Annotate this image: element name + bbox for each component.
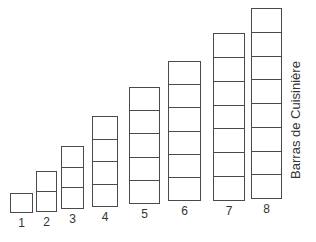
rod-unit-cell (169, 84, 200, 107)
rod-3 (61, 146, 84, 209)
rod-number-label: 6 (175, 204, 195, 218)
diagram-title: Barras de Cuisinière (288, 61, 303, 179)
rod-unit-cell (130, 180, 159, 203)
rod-unit-cell (214, 152, 244, 176)
rod-unit-cell (252, 174, 281, 198)
rod-unit-cell (214, 57, 244, 81)
rod-unit-cell (214, 105, 244, 129)
rod-unit-cell (37, 191, 56, 211)
rod-unit-cell (93, 184, 117, 207)
rod-unit-cell (252, 56, 281, 80)
rod-8 (251, 8, 282, 199)
rod-unit-cell (252, 79, 281, 103)
rod-unit-cell (214, 34, 244, 57)
rod-unit-cell (169, 107, 200, 130)
rod-unit-cell (93, 117, 117, 139)
rod-4 (92, 116, 118, 207)
rod-unit-cell (252, 9, 281, 32)
rod-unit-cell (169, 154, 200, 177)
rod-unit-cell (62, 147, 83, 167)
rod-unit-cell (169, 177, 200, 200)
rod-unit-cell (11, 194, 32, 212)
rod-7 (213, 33, 245, 201)
rod-number-label: 1 (12, 216, 32, 230)
rod-unit-cell (130, 157, 159, 180)
rod-unit-cell (169, 131, 200, 154)
rod-unit-cell (62, 167, 83, 188)
rod-unit-cell (93, 139, 117, 162)
rod-unit-cell (37, 172, 56, 191)
rod-unit-cell (130, 88, 159, 110)
rod-unit-cell (252, 103, 281, 127)
rod-unit-cell (62, 187, 83, 208)
rod-unit-cell (252, 32, 281, 56)
rod-2 (36, 171, 57, 212)
rod-number-label: 2 (37, 215, 57, 229)
rod-number-label: 4 (95, 210, 115, 224)
rod-number-label: 5 (135, 207, 155, 221)
rod-unit-cell (130, 133, 159, 156)
rod-unit-cell (93, 161, 117, 184)
rod-unit-cell (214, 81, 244, 105)
rod-1 (10, 193, 33, 213)
rod-unit-cell (169, 62, 200, 84)
rod-unit-cell (214, 176, 244, 200)
rod-unit-cell (214, 128, 244, 152)
rod-number-label: 7 (219, 204, 239, 218)
rod-6 (168, 61, 201, 201)
rod-unit-cell (130, 110, 159, 133)
rod-unit-cell (252, 151, 281, 175)
rod-5 (129, 87, 160, 204)
rod-number-label: 8 (257, 202, 277, 216)
rod-number-label: 3 (63, 212, 83, 226)
rod-unit-cell (252, 127, 281, 151)
